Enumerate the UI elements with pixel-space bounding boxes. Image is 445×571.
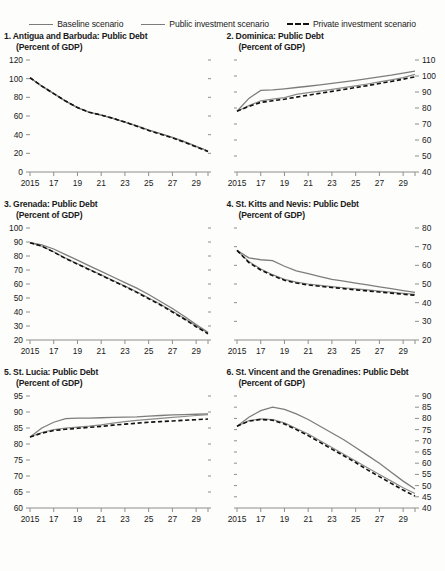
y-tick-label: 80 [422, 103, 432, 113]
x-tick-label: 25 [351, 346, 361, 356]
y-tick-label: 20 [14, 335, 24, 345]
x-tick-label: 21 [97, 178, 107, 188]
series-line-pub [30, 78, 208, 151]
y-tick-label: 70 [14, 265, 24, 275]
chart-svg: 2030405060708090100201517192123252729 [0, 220, 222, 360]
legend-line-public-icon [141, 24, 165, 25]
y-tick-label: 50 [422, 151, 432, 161]
panel-5-plot: 6065707580859095201517192123252729 [0, 388, 223, 528]
y-tick-label: 60 [422, 458, 432, 468]
y-tick-label: 20 [14, 148, 24, 158]
y-tick-label: 85 [422, 402, 432, 412]
x-tick-label: 2015 [21, 346, 40, 356]
panel-6: 6. St. Vincent and the Grenadines: Publi… [223, 367, 445, 535]
y-tick-label: 40 [422, 167, 432, 177]
chart-svg: 4045505560657075808590201517192123252729 [223, 388, 445, 528]
x-tick-label: 2015 [227, 514, 246, 524]
panel-3: 3. Grenada: Public Debt (Percent of GDP)… [0, 199, 223, 367]
x-tick-label: 27 [168, 346, 178, 356]
x-tick-label: 21 [303, 514, 313, 524]
y-tick-label: 60 [14, 503, 24, 513]
x-tick-label: 25 [144, 514, 154, 524]
y-tick-label: 65 [14, 487, 24, 497]
y-tick-label: 40 [422, 503, 432, 513]
panel-5: 5. St. Lucia: Public Debt (Percent of GD… [0, 367, 223, 535]
y-tick-label: 120 [9, 55, 23, 65]
panel-6-title: 6. St. Vincent and the Grenadines: Publi… [223, 367, 444, 378]
panel-3-plot: 2030405060708090100201517192123252729 [0, 220, 223, 360]
panel-4: 4. St. Kitts and Nevis: Public Debt (Per… [223, 199, 445, 367]
charts-grid: 1. Antigua and Barbuda: Public Debt (Per… [0, 31, 445, 535]
y-tick-label: 80 [422, 413, 432, 423]
y-tick-label: 70 [14, 471, 24, 481]
panel-3-title-block: 3. Grenada: Public Debt (Percent of GDP) [0, 199, 223, 220]
panel-4-plot: 20304050607080201517192123252729 [223, 220, 445, 360]
y-tick-label: 70 [422, 119, 432, 129]
panel-3-subtitle: (Percent of GDP) [0, 210, 221, 221]
y-tick-label: 0 [18, 167, 23, 177]
y-tick-label: 90 [422, 87, 432, 97]
y-tick-label: 70 [422, 436, 432, 446]
panel-4-title: 4. St. Kitts and Nevis: Public Debt [223, 199, 444, 210]
y-tick-label: 70 [422, 242, 432, 252]
y-tick-label: 60 [14, 111, 24, 121]
x-tick-label: 17 [49, 514, 59, 524]
x-tick-label: 19 [73, 178, 83, 188]
x-tick-label: 23 [120, 346, 130, 356]
x-tick-label: 27 [374, 178, 384, 188]
y-tick-label: 95 [14, 391, 24, 401]
panel-1-title-block: 1. Antigua and Barbuda: Public Debt (Per… [0, 31, 223, 52]
y-tick-label: 20 [422, 335, 432, 345]
legend-item-baseline: Baseline scenario [29, 19, 123, 29]
x-tick-label: 19 [279, 514, 289, 524]
panel-1-title: 1. Antigua and Barbuda: Public Debt [0, 31, 221, 42]
legend-label-baseline: Baseline scenario [57, 19, 123, 29]
x-tick-label: 23 [120, 178, 130, 188]
chart-svg: 6065707580859095201517192123252729 [0, 388, 222, 528]
panel-2-plot: 405060708090100110201517192123252729 [223, 52, 445, 192]
x-tick-label: 19 [73, 514, 83, 524]
series-line-priv [30, 78, 208, 152]
panel-1-subtitle: (Percent of GDP) [0, 42, 221, 53]
panel-3-title: 3. Grenada: Public Debt [0, 199, 221, 210]
x-tick-label: 27 [168, 514, 178, 524]
y-tick-label: 80 [14, 251, 24, 261]
y-tick-label: 100 [9, 74, 23, 84]
x-tick-label: 29 [398, 346, 408, 356]
y-tick-label: 100 [422, 71, 436, 81]
legend: Baseline scenario Public investment scen… [0, 0, 445, 31]
panel-1: 1. Antigua and Barbuda: Public Debt (Per… [0, 31, 223, 199]
x-tick-label: 17 [256, 346, 266, 356]
x-tick-label: 29 [398, 514, 408, 524]
x-tick-label: 19 [279, 346, 289, 356]
series-line-base [30, 243, 208, 333]
x-tick-label: 29 [191, 514, 201, 524]
panel-2-subtitle: (Percent of GDP) [223, 42, 444, 53]
y-tick-label: 30 [14, 321, 24, 331]
x-tick-label: 25 [144, 178, 154, 188]
x-tick-label: 2015 [227, 178, 246, 188]
y-tick-label: 50 [14, 293, 24, 303]
x-tick-label: 21 [97, 346, 107, 356]
x-tick-label: 21 [97, 514, 107, 524]
x-tick-label: 19 [279, 178, 289, 188]
x-tick-label: 2015 [21, 178, 40, 188]
series-line-priv [237, 77, 415, 111]
y-tick-label: 100 [9, 223, 23, 233]
y-tick-label: 75 [422, 425, 432, 435]
panel-2-title-block: 2. Dominica: Public Debt (Percent of GDP… [223, 31, 445, 52]
chart-svg: 020406080100120201517192123252729 [0, 52, 222, 192]
y-tick-label: 40 [422, 298, 432, 308]
panel-4-subtitle: (Percent of GDP) [223, 210, 444, 221]
series-line-pub [30, 243, 208, 333]
x-tick-label: 17 [49, 346, 59, 356]
x-tick-label: 23 [327, 178, 337, 188]
y-tick-label: 90 [14, 237, 24, 247]
y-tick-label: 40 [14, 130, 24, 140]
series-line-base [237, 71, 415, 111]
y-tick-label: 75 [14, 455, 24, 465]
y-tick-label: 80 [14, 92, 24, 102]
x-tick-label: 23 [327, 514, 337, 524]
x-tick-label: 29 [191, 346, 201, 356]
y-tick-label: 40 [14, 307, 24, 317]
